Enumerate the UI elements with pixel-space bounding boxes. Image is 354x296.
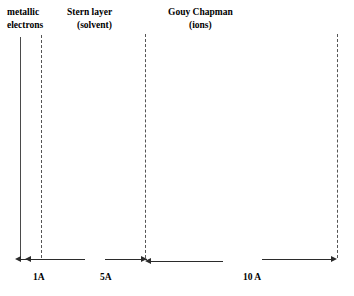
measure-arrow-10a (262, 259, 335, 260)
region-label-line1: Stern layer (67, 7, 112, 17)
measure-arrow-1a-inner (28, 259, 85, 260)
region-label-metallic-electrons: metallic electrons (7, 6, 43, 32)
boundary-line-inner-helmholtz (41, 35, 42, 258)
measure-arrowhead-1a-outer (15, 256, 21, 262)
boundary-line-diffuse-layer-edge (337, 34, 338, 258)
diagram-canvas: metallic electrons Stern layer (solvent)… (0, 0, 354, 296)
region-label-line2: (solvent) (67, 19, 112, 32)
measure-arrow-gouy (148, 261, 223, 262)
region-label-gouy-chapman: Gouy Chapman (ions) (168, 6, 233, 32)
measure-arrowhead-1a-inner (25, 256, 31, 262)
distance-label-1a: 1A (33, 272, 45, 282)
boundary-line-metal-surface (20, 37, 21, 258)
region-label-line1: Gouy Chapman (168, 6, 233, 19)
region-label-line1: metallic (7, 7, 39, 17)
measure-arrowhead-10a (331, 256, 337, 262)
region-label-line2: electrons (7, 19, 43, 32)
measure-arrowhead-gouy (145, 258, 151, 264)
boundary-line-outer-helmholtz (145, 34, 146, 258)
region-label-line2: (ions) (168, 19, 233, 32)
distance-label-5a: 5A (100, 272, 112, 282)
distance-label-10a: 10 A (243, 272, 261, 282)
region-label-stern-layer: Stern layer (solvent) (67, 6, 112, 32)
